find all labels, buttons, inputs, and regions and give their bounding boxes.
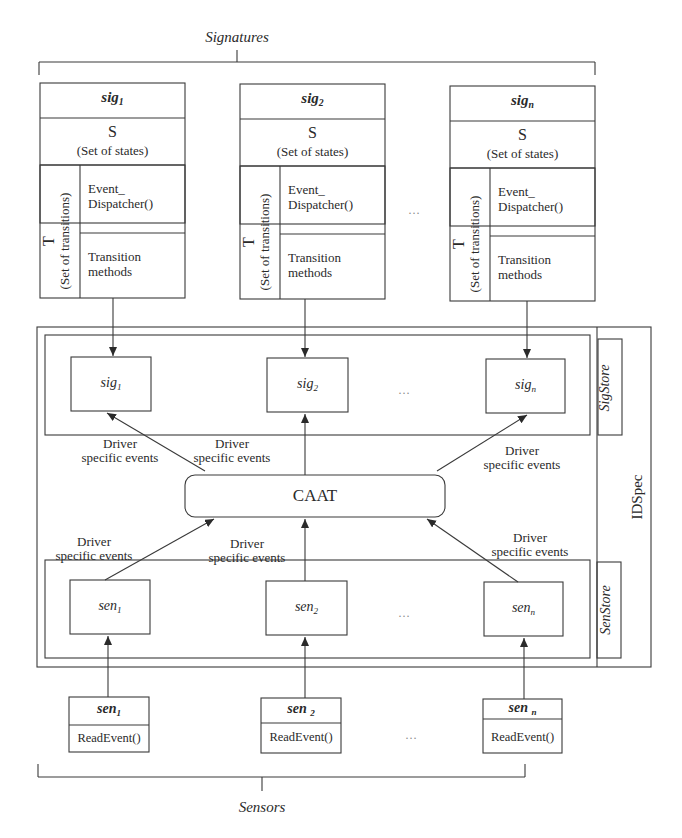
- edge-label-caat-sig1: Driverspecific events: [70, 437, 170, 464]
- sig-class-1-dispatcher: Event_Dispatcher(): [88, 182, 153, 212]
- sig-class-2-dispatcher: Event_Dispatcher(): [288, 183, 353, 213]
- sensor-class-2-title: sen 2: [261, 702, 341, 719]
- senstore-item-n-label: senn: [484, 601, 563, 618]
- sig-class-n-states-caption: (Set of states): [450, 147, 595, 161]
- idspec-label: IDSpec: [630, 462, 648, 532]
- sig-class-n-dispatcher: Event_Dispatcher(): [498, 185, 563, 215]
- signature-ellipsis: …: [408, 203, 422, 218]
- sensor-class-1-title: sen1: [69, 702, 149, 719]
- caat-label: CAAT: [185, 487, 445, 505]
- sig-class-n-title: sign: [450, 93, 595, 111]
- senstore-ellipsis: …: [398, 606, 412, 621]
- sig-class-2-states-caption: (Set of states): [240, 145, 385, 159]
- sig-class-n-transitions: T(Set of transitions): [451, 178, 491, 311]
- edge-label-senn-caat: Driverspecific events: [480, 531, 580, 558]
- sig-class-1-states-title: S: [40, 124, 185, 141]
- signatures-bracket: [39, 50, 595, 75]
- sig-class-n-states-title: S: [450, 127, 595, 144]
- edge-label-sen2-caat: Driverspecific events: [197, 537, 297, 564]
- sig-class-n-methods: Transitionmethods: [498, 253, 551, 283]
- signatures-label: Signatures: [197, 30, 277, 46]
- sigstore-item-n-label: sign: [486, 378, 565, 395]
- edge-label-caat-sign: Driverspecific events: [472, 444, 572, 471]
- sensor-class-n-title: sen n: [483, 701, 562, 718]
- sig-class-1-methods: Transitionmethods: [88, 250, 141, 280]
- sensor-class-2-method: ReadEvent(): [261, 731, 341, 744]
- sig-class-2-methods: Transitionmethods: [288, 251, 341, 281]
- sigstore-ellipsis: …: [398, 383, 412, 398]
- sig-class-1-title: sig1: [40, 90, 185, 108]
- sig-class-2-title: sig2: [240, 91, 385, 109]
- sensor-class-n-method: ReadEvent(): [483, 731, 562, 744]
- sensor-class-1-method: ReadEvent(): [69, 732, 149, 745]
- edge-label-caat-sig2: Driverspecific events: [182, 437, 282, 464]
- sig-class-2-transitions: T(Set of transitions): [241, 176, 281, 309]
- sig-class-1-states-caption: (Set of states): [40, 144, 185, 158]
- sigstore-item-1-label: sig1: [71, 376, 151, 393]
- sigstore-item-2-label: sig2: [267, 377, 348, 394]
- senstore-item-1-label: sen1: [70, 599, 150, 616]
- sensors-bracket: [38, 764, 525, 791]
- senstore-label: SenStore: [599, 562, 619, 658]
- sigstore-label: SigStore: [598, 340, 618, 436]
- senstore-item-2-label: sen2: [266, 600, 347, 617]
- edge-label-sen1-caat: Driverspecific events: [44, 535, 144, 562]
- sensors-ellipsis: …: [405, 728, 419, 743]
- sensors-label: Sensors: [222, 800, 302, 816]
- sig-class-2-states-title: S: [240, 125, 385, 142]
- sig-class-1-transitions: T(Set of transitions): [41, 175, 81, 308]
